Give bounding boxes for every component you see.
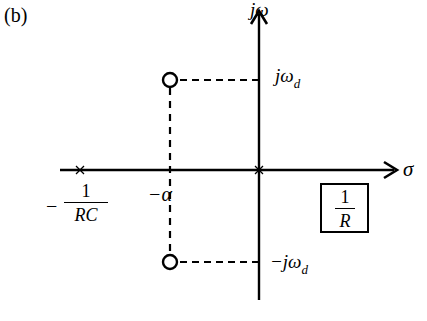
lower-zero-label: −jωd bbox=[270, 252, 308, 271]
gain-denominator: R bbox=[340, 209, 351, 230]
pole-label-numerator: 1 bbox=[82, 182, 91, 202]
pole-label-denominator: RC bbox=[74, 203, 97, 224]
upper-zero-circle bbox=[163, 73, 177, 87]
pole-label-sign: − bbox=[46, 196, 57, 216]
s-plane-diagram bbox=[0, 0, 427, 321]
pole-label-fraction: 1 RC bbox=[64, 182, 108, 224]
upper-zero-label-text: jω bbox=[275, 65, 294, 86]
upper-zero-label-sub: d bbox=[294, 76, 301, 91]
upper-zero-label: jωd bbox=[275, 66, 300, 85]
lower-zero-label-sub: d bbox=[302, 262, 309, 277]
sigma-axis-label: σ bbox=[403, 159, 413, 180]
lower-zero-circle bbox=[163, 255, 177, 269]
alpha-label: −α bbox=[148, 184, 172, 204]
gain-fraction: 1 R bbox=[335, 188, 355, 230]
panel-label: (b) bbox=[4, 5, 27, 25]
jw-axis-label: jω bbox=[250, 0, 269, 19]
gain-numerator: 1 bbox=[341, 188, 350, 208]
lower-zero-label-text: −jω bbox=[270, 251, 302, 272]
